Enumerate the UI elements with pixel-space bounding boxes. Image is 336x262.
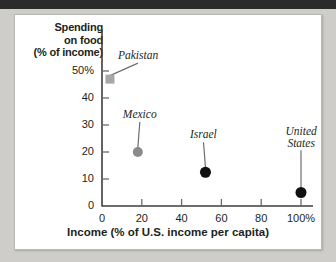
point-label-mexico: Mexico bbox=[123, 108, 157, 120]
leader-line-pakistan bbox=[110, 63, 138, 76]
point-label-line: Israel bbox=[190, 128, 217, 140]
point-label-line: Pakistan bbox=[118, 49, 158, 61]
data-point-israel[interactable] bbox=[200, 167, 211, 178]
point-label-pakistan: Pakistan bbox=[118, 49, 158, 61]
x-axis-tick-label: 100% bbox=[278, 212, 324, 224]
point-label-line: United bbox=[286, 125, 317, 137]
y-axis-tick-label: 0 bbox=[50, 199, 94, 211]
data-point-pakistan[interactable] bbox=[105, 75, 114, 84]
y-axis-tick-label: 50% bbox=[50, 64, 94, 76]
y-axis-tick-label: 30 bbox=[50, 118, 94, 130]
leader-line-mexico bbox=[138, 122, 140, 148]
data-point-united-states[interactable] bbox=[296, 187, 307, 198]
figure-card: Spending on food (% of income) Income (%… bbox=[14, 14, 322, 250]
point-label-israel: Israel bbox=[190, 128, 217, 140]
leader-line-israel bbox=[203, 142, 205, 168]
y-axis-tick-label: 20 bbox=[50, 145, 94, 157]
point-label-line: States bbox=[286, 137, 317, 149]
data-point-mexico[interactable] bbox=[133, 147, 143, 157]
y-axis-tick-label: 10 bbox=[50, 172, 94, 184]
y-axis-tick-label: 40 bbox=[50, 91, 94, 103]
point-label-united-states: UnitedStates bbox=[286, 125, 317, 149]
top-dark-strip bbox=[0, 0, 336, 9]
point-label-line: Mexico bbox=[123, 108, 157, 120]
